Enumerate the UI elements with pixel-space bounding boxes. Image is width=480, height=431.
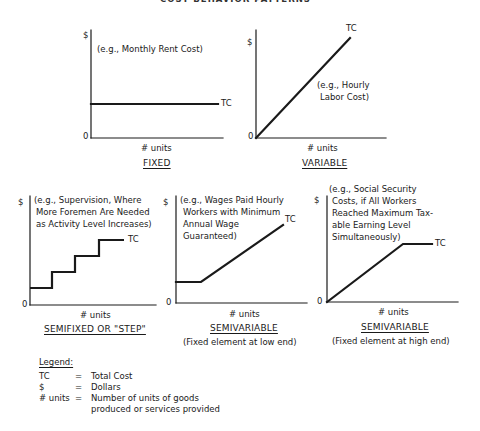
semivariable-low-example-1: (e.g., Wages Paid Hourly [180, 195, 284, 206]
fixed-title: FIXED [143, 158, 171, 168]
semifixed-tc-label: TC [128, 234, 139, 245]
semifixed-example-3: as Activity Level Increases) [36, 219, 152, 230]
variable-x-label: # units [307, 143, 338, 154]
legend-eq: = [75, 393, 82, 404]
semivariable-high-tc-line [327, 244, 432, 302]
semivariable-high-example-2: Costs, if All Workers [332, 196, 416, 207]
semifixed-origin: 0 [22, 299, 27, 310]
semivariable-high-origin: 0 [317, 296, 322, 307]
semivariable-high-example-3: Reached Maximum Tax- [332, 208, 433, 219]
fixed-tc-label: TC [221, 98, 232, 109]
legend: Legend: TC = Total Cost $ = Dollars # un… [39, 357, 73, 431]
fixed-example: (e.g., Monthly Rent Cost) [97, 44, 203, 55]
semivariable-low-tc-label: TC [285, 214, 296, 225]
semifixed-tc-line [30, 240, 124, 288]
variable-origin: 0 [248, 131, 253, 142]
semivariable-low-title: SEMIVARIABLE [210, 323, 278, 333]
semivariable-high-example-4: able Earning Level [332, 220, 411, 231]
semifixed-title: SEMIFIXED OR "STEP" [44, 324, 146, 334]
semifixed-x-label: # units [80, 310, 111, 321]
legend-symbol-dollar: $ [39, 382, 44, 393]
semivariable-low-example-3: Annual Wage [183, 219, 239, 230]
semifixed-example-1: (e.g., Supervision, Where [34, 195, 141, 206]
variable-example-1: (e.g., Hourly [317, 80, 370, 91]
semivariable-high-y-label: $ [314, 195, 319, 206]
fixed-y-label: $ [83, 30, 88, 41]
semivariable-high-example-5: Simultaneously) [332, 232, 401, 243]
semivariable-low-example-2: Workers with Minimum [183, 207, 280, 218]
legend-meaning-units-2: produced or services provided [91, 404, 220, 415]
semivariable-low-subtitle: (Fixed element at low end) [183, 337, 297, 347]
semivariable-high-x-label: # units [378, 307, 409, 318]
fixed-origin: 0 [83, 131, 88, 142]
legend-meaning-units: Number of units of goods [91, 393, 199, 404]
semivariable-high-title: SEMIVARIABLE [361, 322, 429, 332]
semivariable-low-x-label: # units [229, 309, 260, 320]
legend-meaning-dollar: Dollars [91, 382, 121, 393]
semivariable-high-subtitle: (Fixed element at high end) [332, 336, 450, 346]
legend-symbol-tc: TC [39, 371, 50, 382]
variable-tc-label: TC [346, 23, 357, 34]
semivariable-high-tc-label: TC [435, 238, 446, 249]
semivariable-low-y-label: $ [163, 197, 168, 208]
legend-symbol-units: # units [39, 393, 70, 404]
semivariable-high-example-1: (e.g., Social Security [329, 184, 417, 195]
fixed-x-label: # units [141, 143, 172, 154]
legend-title: Legend: [39, 357, 73, 368]
variable-y-label: $ [247, 37, 252, 48]
semifixed-y-label: $ [18, 197, 23, 208]
semifixed-example-2: More Foremen Are Needed [36, 207, 150, 218]
semivariable-low-example-4: Guaranteed) [183, 231, 237, 242]
legend-eq: = [75, 382, 82, 393]
variable-title: VARIABLE [302, 158, 347, 168]
legend-meaning-tc: Total Cost [91, 371, 132, 382]
variable-example-2: Labor Cost) [320, 92, 369, 103]
semivariable-low-origin: 0 [166, 297, 171, 308]
legend-eq: = [75, 371, 82, 382]
